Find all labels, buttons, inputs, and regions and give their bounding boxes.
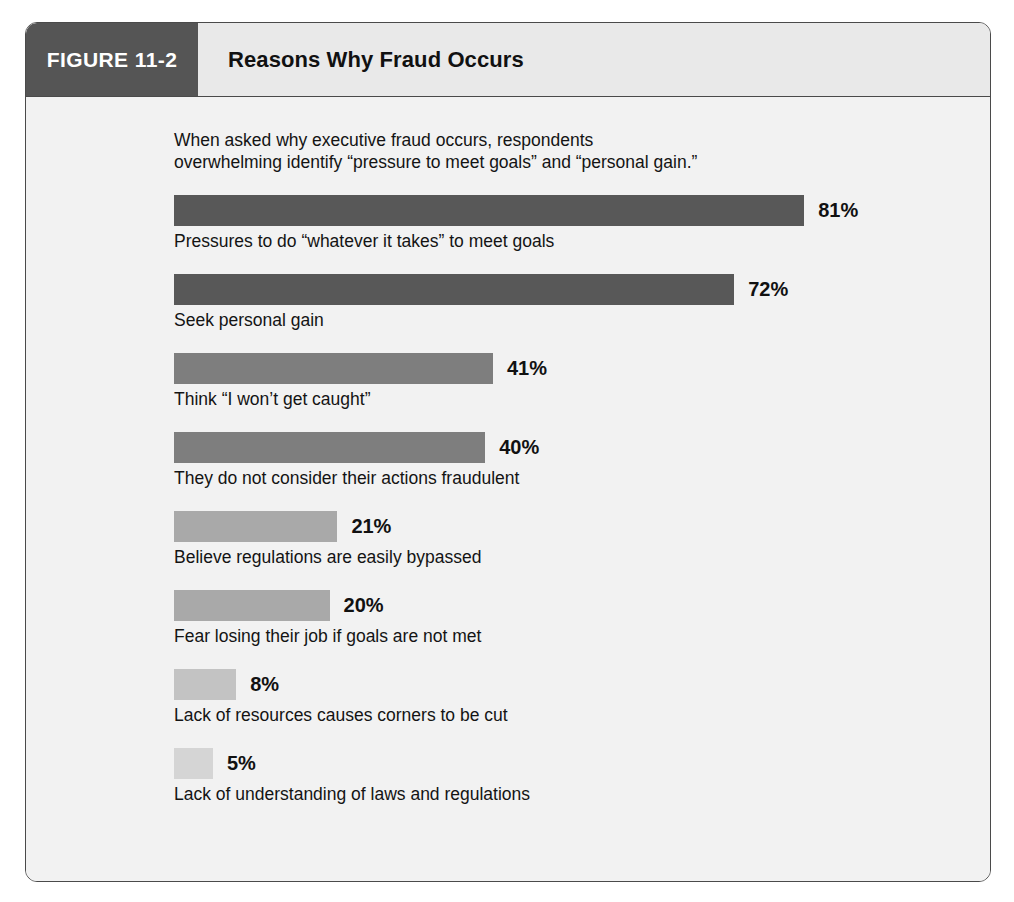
chart-row: 20%Fear losing their job if goals are no… [174, 590, 950, 647]
bar-line: 8% [174, 669, 950, 700]
bar-category-label: Fear losing their job if goals are not m… [174, 626, 950, 647]
bar-value-label: 41% [507, 357, 547, 380]
bar-rect [174, 195, 804, 226]
bar-rect [174, 590, 330, 621]
bar-rect [174, 669, 236, 700]
figure-title: Reasons Why Fraud Occurs [228, 47, 524, 73]
bar-line: 72% [174, 274, 950, 305]
chart-row: 21%Believe regulations are easily bypass… [174, 511, 950, 568]
bar-category-label: Think “I won’t get caught” [174, 389, 950, 410]
figure-header: FIGURE 11-2 Reasons Why Fraud Occurs [26, 23, 990, 97]
chart-row: 41%Think “I won’t get caught” [174, 353, 950, 410]
bar-category-label: Lack of resources causes corners to be c… [174, 705, 950, 726]
bar-value-label: 20% [344, 594, 384, 617]
bar-value-label: 40% [499, 436, 539, 459]
bar-rect [174, 274, 734, 305]
chart-row: 81%Pressures to do “whatever it takes” t… [174, 195, 950, 252]
bar-line: 40% [174, 432, 950, 463]
bar-value-label: 21% [351, 515, 391, 538]
bar-category-label: They do not consider their actions fraud… [174, 468, 950, 489]
bar-category-label: Lack of understanding of laws and regula… [174, 784, 950, 805]
chart-row: 5%Lack of understanding of laws and regu… [174, 748, 950, 805]
bar-value-label: 81% [818, 199, 858, 222]
figure-number-badge: FIGURE 11-2 [26, 23, 198, 96]
bar-category-label: Believe regulations are easily bypassed [174, 547, 950, 568]
bar-rect [174, 432, 485, 463]
figure-title-container: Reasons Why Fraud Occurs [198, 23, 990, 96]
bar-chart: 81%Pressures to do “whatever it takes” t… [174, 195, 950, 805]
figure-frame: FIGURE 11-2 Reasons Why Fraud Occurs Whe… [25, 22, 991, 882]
chart-row: 8%Lack of resources causes corners to be… [174, 669, 950, 726]
bar-rect [174, 353, 493, 384]
bar-line: 5% [174, 748, 950, 779]
bar-value-label: 5% [227, 752, 256, 775]
bar-rect [174, 511, 337, 542]
bar-value-label: 72% [748, 278, 788, 301]
bar-category-label: Seek personal gain [174, 310, 950, 331]
chart-row: 72%Seek personal gain [174, 274, 950, 331]
chart-row: 40%They do not consider their actions fr… [174, 432, 950, 489]
bar-rect [174, 748, 213, 779]
intro-paragraph: When asked why executive fraud occurs, r… [174, 129, 814, 173]
bar-line: 21% [174, 511, 950, 542]
bar-category-label: Pressures to do “whatever it takes” to m… [174, 231, 950, 252]
bar-line: 20% [174, 590, 950, 621]
bar-value-label: 8% [250, 673, 279, 696]
bar-line: 81% [174, 195, 950, 226]
bar-line: 41% [174, 353, 950, 384]
figure-number-label: FIGURE 11-2 [47, 48, 177, 72]
figure-body: When asked why executive fraud occurs, r… [26, 97, 990, 881]
